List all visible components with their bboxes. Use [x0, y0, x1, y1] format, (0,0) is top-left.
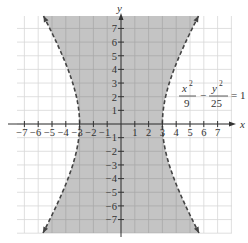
- eq-x-denominator: 9: [184, 97, 190, 109]
- y-tick-label: −7: [106, 214, 117, 225]
- y-tick-label: 6: [112, 37, 117, 48]
- eq-x-exponent: 2: [189, 79, 193, 88]
- y-tick-label: −3: [106, 160, 117, 171]
- x-tick-label: −4: [58, 127, 70, 138]
- x-tick-label: 3: [160, 127, 165, 138]
- x-tick-label: −3: [72, 127, 83, 138]
- eq-x-numerator: x: [181, 82, 187, 94]
- x-tick-label: 2: [146, 127, 151, 138]
- hyperbola-plot: −7−6−5−4−3−2−112345677654321−1−2−3−4−5−6…: [0, 0, 248, 243]
- x-tick-label: 1: [132, 127, 137, 138]
- eq-equals-one: = 1: [231, 89, 245, 101]
- eq-y-denominator: 25: [211, 97, 223, 109]
- x-tick-label: 5: [187, 127, 192, 138]
- y-tick-label: −2: [106, 146, 117, 157]
- y-tick-label: 7: [112, 23, 117, 34]
- y-tick-label: 2: [112, 92, 117, 103]
- x-tick-label: −2: [85, 127, 96, 138]
- y-axis-label: y: [116, 2, 122, 14]
- y-tick-label: 1: [112, 105, 117, 116]
- y-tick-label: 4: [112, 64, 118, 75]
- y-tick-label: −5: [106, 187, 117, 198]
- x-tick-label: 7: [215, 127, 220, 138]
- x-tick-label: −6: [30, 127, 41, 138]
- x-tick-label: 4: [174, 127, 180, 138]
- eq-y-numerator: y: [211, 82, 217, 94]
- y-tick-label: 3: [112, 78, 117, 89]
- eq-minus: −: [200, 89, 206, 101]
- y-tick-label: −4: [106, 173, 118, 184]
- y-tick-label: −6: [106, 201, 117, 212]
- y-tick-label: −1: [106, 132, 117, 143]
- x-tick-label: 6: [201, 127, 206, 138]
- y-tick-label: 5: [112, 51, 117, 62]
- x-tick-label: −5: [44, 127, 55, 138]
- x-tick-label: −7: [16, 127, 27, 138]
- eq-y-exponent: 2: [219, 79, 223, 88]
- plot-canvas: −7−6−5−4−3−2−112345677654321−1−2−3−4−5−6…: [0, 0, 248, 243]
- x-axis-label: x: [239, 118, 245, 130]
